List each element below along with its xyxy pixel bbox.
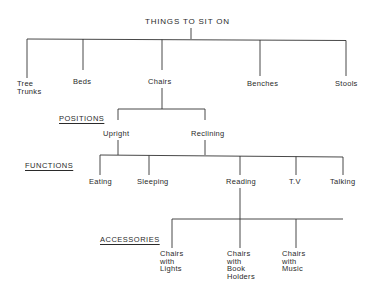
node-reading: Reading — [226, 178, 256, 186]
node-tree-trunks: Tree Trunks — [17, 80, 41, 96]
node-chairs-with-music: Chairs with Music — [282, 250, 305, 273]
node-reclining: Reclining — [191, 130, 225, 138]
node-eating: Eating — [89, 178, 112, 186]
root-node-title: THINGS TO SIT ON — [145, 18, 230, 26]
tree-diagram: THINGS TO SIT ON Tree Trunks Beds Chairs… — [0, 0, 377, 286]
connector-lines — [0, 0, 377, 286]
node-upright: Upright — [103, 130, 129, 138]
node-chairs: Chairs — [148, 78, 171, 86]
node-tv: T.V — [289, 178, 301, 186]
node-talking: Talking — [330, 178, 355, 186]
node-stools: Stools — [335, 80, 358, 88]
node-sleeping: Sleeping — [137, 178, 169, 186]
category-functions: FUNCTIONS — [25, 162, 73, 170]
category-positions: POSITIONS — [59, 115, 104, 123]
category-accessories: ACCESSORIES — [100, 236, 160, 244]
node-chairs-with-book-holders: Chairs with Book Holders — [227, 250, 255, 280]
node-chairs-with-lights: Chairs with Lights — [160, 250, 183, 273]
node-benches: Benches — [247, 80, 278, 88]
node-beds: Beds — [73, 78, 91, 86]
